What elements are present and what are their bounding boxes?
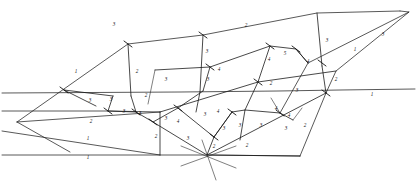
edge-label: 4 bbox=[218, 66, 221, 72]
edge-label: 2 bbox=[90, 118, 93, 124]
edge-group bbox=[2, 11, 415, 180]
edge-bottom-left-diag bbox=[2, 131, 160, 155]
edge-diag-lower bbox=[153, 122, 300, 156]
line-network-svg: 2333134544323212323333223433433443322211… bbox=[0, 0, 417, 181]
edge-vert-a bbox=[128, 44, 131, 96]
edge-cell-a bbox=[178, 91, 203, 108]
edge-label: 1 bbox=[75, 68, 78, 74]
edge-label: 3 bbox=[382, 31, 385, 37]
node-tick bbox=[228, 109, 236, 115]
edge-mid-stub bbox=[148, 70, 155, 104]
edge-label: 2 bbox=[335, 76, 338, 82]
edge-label: 2 bbox=[246, 142, 249, 148]
edge-label: 3 bbox=[285, 125, 288, 131]
edge-label: 3 bbox=[223, 125, 226, 131]
edge-label: 4 bbox=[177, 118, 180, 124]
edge-label: 4 bbox=[288, 112, 291, 118]
edge-label: 3 bbox=[326, 37, 329, 43]
edge-cell-c bbox=[232, 110, 280, 113]
edge-label: 3 bbox=[89, 97, 92, 103]
edge-label: 3 bbox=[207, 76, 210, 82]
edge-upper-left bbox=[17, 44, 128, 122]
node-tick bbox=[149, 119, 157, 125]
edge-label: 3 bbox=[296, 87, 299, 93]
edge-label: 2 bbox=[145, 92, 148, 98]
edge-label: 5 bbox=[284, 50, 287, 56]
edge-label: 2 bbox=[213, 143, 216, 149]
edge-top-long bbox=[128, 11, 400, 44]
edge-label: 3 bbox=[165, 115, 168, 121]
edge-label: 3 bbox=[113, 21, 116, 27]
edge-label: 3 bbox=[123, 108, 126, 114]
edge-label: 3 bbox=[206, 48, 209, 54]
edge-label: 4 bbox=[307, 58, 310, 64]
edge-label: 1 bbox=[87, 154, 90, 160]
edge-label: 4 bbox=[275, 105, 278, 111]
edge-label: 1 bbox=[87, 135, 90, 141]
edge-cluster-c bbox=[64, 90, 113, 96]
edge-label: 2 bbox=[245, 22, 248, 28]
edge-label: 2 bbox=[155, 133, 158, 139]
edge-label: 3 bbox=[110, 96, 113, 102]
edge-label: 3 bbox=[165, 76, 168, 82]
edge-right-apex bbox=[326, 11, 409, 93]
edge-label: 3 bbox=[139, 110, 142, 116]
edge-label: 1 bbox=[354, 46, 357, 52]
edge-label: 2 bbox=[304, 122, 307, 128]
edge-poly-left bbox=[258, 46, 270, 82]
edge-cell-f bbox=[245, 82, 258, 110]
edge-label: 4 bbox=[217, 108, 220, 114]
edge-label: 1 bbox=[371, 91, 374, 97]
edge-label: 3 bbox=[204, 111, 207, 117]
edge-label: 2 bbox=[270, 80, 273, 86]
edge-label: 3 bbox=[239, 122, 242, 128]
edge-drop-d bbox=[322, 66, 326, 93]
edge-label: 4 bbox=[268, 56, 271, 62]
edge-diag-right bbox=[207, 93, 326, 155]
diagram-canvas: 2333134544323212323333223433433443322211… bbox=[0, 0, 417, 181]
edge-label: 3 bbox=[187, 135, 190, 141]
edge-label: 3 bbox=[260, 122, 263, 128]
edge-right-inner bbox=[280, 12, 409, 113]
edge-vert-b bbox=[200, 35, 203, 92]
edge-label: 2 bbox=[136, 68, 139, 74]
node-tick bbox=[210, 134, 218, 140]
